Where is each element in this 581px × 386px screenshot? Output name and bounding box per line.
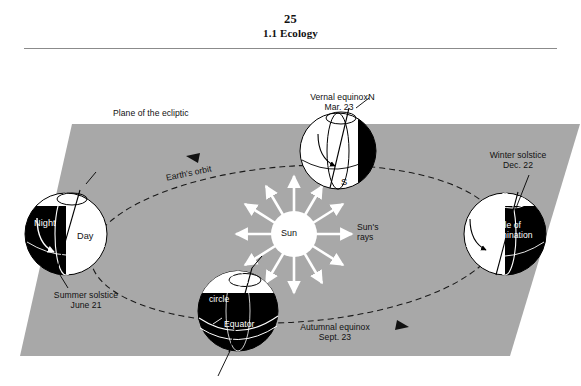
suns-rays-line2: rays bbox=[357, 232, 373, 242]
suns-rays-label: Sun's rays bbox=[357, 222, 378, 243]
arctic-circle-line2: circle bbox=[209, 294, 229, 304]
north-pole-label: N bbox=[368, 92, 375, 102]
page-number: 25 bbox=[0, 12, 581, 26]
winter-solstice-name: Winter solstice bbox=[490, 150, 547, 160]
circle-of-illumination-line1: Circle of bbox=[489, 220, 521, 230]
winter-solstice-date: Dec. 22 bbox=[503, 160, 533, 170]
sun-label: Sun bbox=[281, 228, 297, 238]
autumnal-equinox-date: Sept. 23 bbox=[319, 332, 351, 342]
page-header: 25 1.1 Ecology bbox=[0, 12, 581, 40]
plane-of-ecliptic-label: Plane of the ecliptic bbox=[113, 108, 189, 118]
autumnal-equinox-label: Autumnal equinox Sept. 23 bbox=[277, 322, 393, 343]
earth-orbit-diagram: Plane of the ecliptic Earth's orbit Sun … bbox=[0, 56, 581, 386]
page-canvas: 25 1.1 Ecology bbox=[0, 0, 581, 386]
summer-solstice-date: June 21 bbox=[71, 300, 102, 310]
arctic-circle-line1: Arctic bbox=[209, 284, 231, 294]
section-title: 1.1 Ecology bbox=[0, 26, 581, 40]
vernal-equinox-date: Mar. 23 bbox=[324, 102, 353, 112]
vernal-equinox-name: Vernal equinox bbox=[310, 92, 368, 102]
suns-rays-line1: Sun's bbox=[357, 222, 378, 232]
summer-solstice-label: Summer solstice June 21 bbox=[32, 290, 140, 311]
winter-solstice-label: Winter solstice Dec. 22 bbox=[466, 150, 570, 171]
arctic-circle-label: Arctic circle bbox=[209, 284, 231, 305]
header-divider bbox=[24, 48, 557, 49]
night-label: Night bbox=[34, 218, 56, 228]
summer-solstice-name: Summer solstice bbox=[54, 290, 118, 300]
circle-of-illumination-line2: illumination bbox=[489, 230, 533, 240]
day-label: Day bbox=[77, 231, 94, 241]
circle-of-illumination-label: Circle of illumination bbox=[489, 220, 533, 241]
autumnal-equinox-name: Autumnal equinox bbox=[300, 322, 370, 332]
south-pole-label: S bbox=[341, 177, 347, 187]
equator-label: Equator bbox=[224, 319, 254, 329]
